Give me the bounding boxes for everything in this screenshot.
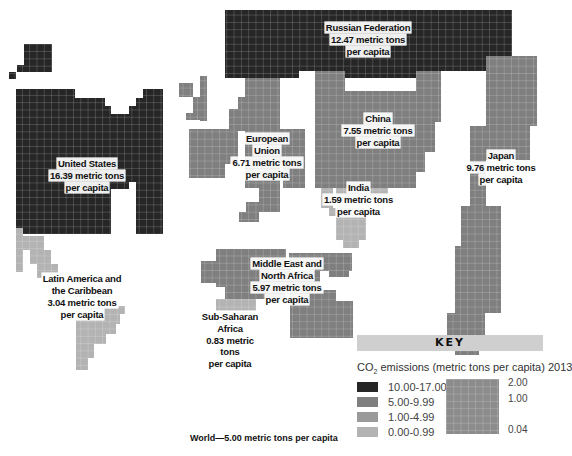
key-row-1-5: 1.00-4.99 [357,410,434,424]
scale-label-2: 2.00 [508,377,527,388]
label-russia: Russian Federation 12.47 metric tons per… [318,22,418,58]
key-swatch-lighter [357,427,378,437]
key-header: KEY [357,335,543,351]
key-scale-grid [446,379,499,434]
key-row-0-1: 0.00-0.99 [357,425,434,439]
key-title: CO2 emissions (metric tons per capita) 2… [357,361,572,375]
label-japan: Japan 9.76 metric tons per capita [461,150,541,186]
label-sub-saharan-africa: Sub-Saharan Africa 0.83 metric tons per … [195,311,265,370]
region-us-alaska [9,44,52,79]
key-row-5-10: 5.00-9.99 [357,395,434,409]
label-middle-east-north-africa: Middle East and North Africa 5.97 metric… [242,258,332,306]
label-latin-america: Latin America and the Caribbean 3.04 met… [32,273,132,321]
key-swatch-mid [357,397,378,407]
region-japan [447,56,537,355]
label-european-union: European Union 6.71 metric tons per capi… [222,133,312,181]
scale-label-1: 1.00 [508,393,527,404]
label-india: India 1.59 metric tons per capita [316,182,401,218]
scale-label-004: 0.04 [508,424,527,435]
world-average-note: World—5.00 metric tons per capita [190,433,338,443]
key-swatch-light [357,412,378,422]
label-united-states: United States 16.39 metric tons per capi… [42,158,132,194]
key-row-10-17: 10.00-17.00 [357,380,447,394]
key-scale-square [446,379,499,434]
label-china: China 7.55 metric tons per capita [333,113,423,149]
key-swatch-dark [357,382,378,392]
region-greenland-eu [179,76,207,121]
